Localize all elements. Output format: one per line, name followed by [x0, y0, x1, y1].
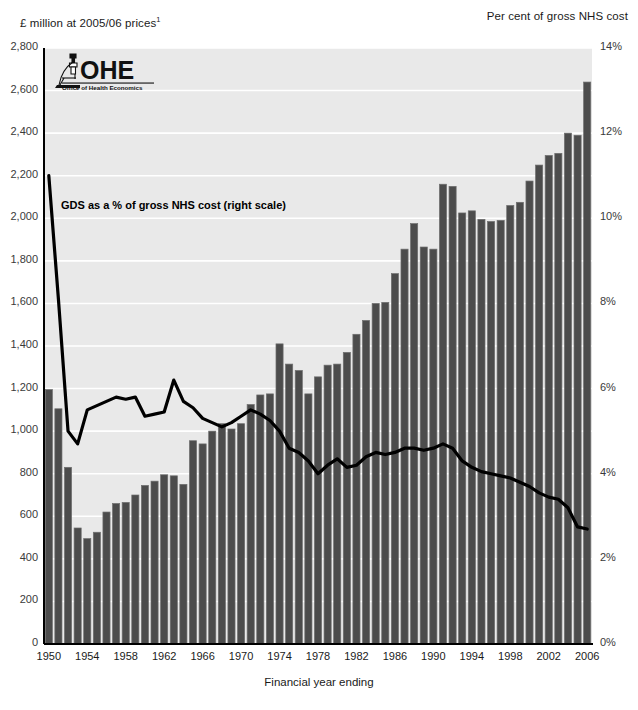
- bar: [478, 219, 485, 644]
- x-axis-tick-label: 1966: [190, 650, 214, 662]
- bar: [545, 155, 552, 644]
- bar: [266, 394, 273, 644]
- y-axis-left-tick-label: 600: [0, 508, 38, 520]
- bar: [516, 202, 523, 644]
- bar: [103, 512, 110, 644]
- bar: [305, 394, 312, 644]
- bar: [257, 395, 264, 644]
- bar: [113, 504, 120, 644]
- bar: [468, 211, 475, 644]
- y-axis-right-tick-label: 8%: [600, 295, 638, 307]
- bar: [247, 405, 254, 644]
- plot-area: [44, 48, 592, 644]
- bar: [324, 365, 331, 644]
- line-series-annotation: GDS as a % of gross NHS cost (right scal…: [61, 199, 286, 211]
- bar: [295, 370, 302, 644]
- y-axis-left-tick-label: 0: [0, 636, 38, 648]
- bar: [122, 502, 129, 644]
- ohe-logo: OHE Office of Health Economics: [50, 48, 156, 92]
- bar: [238, 424, 245, 644]
- y-axis-left-tick-label: 200: [0, 593, 38, 605]
- right-axis-title: Per cent of gross NHS cost: [487, 10, 628, 22]
- bar: [55, 409, 62, 644]
- chart-canvas: [44, 48, 592, 644]
- y-axis-right-tick-label: 10%: [600, 210, 638, 222]
- y-axis-line: [43, 48, 45, 644]
- y-axis-left-tick-label: 1,000: [0, 423, 38, 435]
- bar: [555, 153, 562, 644]
- bar: [459, 213, 466, 644]
- bar: [199, 444, 206, 644]
- y-axis-right-tick-label: 2%: [600, 551, 638, 563]
- bar: [382, 302, 389, 644]
- bar: [84, 539, 91, 644]
- bar: [363, 320, 370, 644]
- y-axis-right-tick-label: 12%: [600, 125, 638, 137]
- bar: [507, 206, 514, 644]
- y-axis-right-tick-label: 14%: [600, 40, 638, 52]
- bar: [189, 441, 196, 644]
- bar: [228, 429, 235, 644]
- x-axis-tick-label: 1994: [460, 650, 484, 662]
- y-axis-left-tick-label: 2,000: [0, 210, 38, 222]
- y-axis-left-tick-label: 2,200: [0, 168, 38, 180]
- bar: [488, 221, 495, 644]
- x-axis-tick-label: 1950: [37, 650, 61, 662]
- y-axis-left-tick-label: 2,600: [0, 83, 38, 95]
- x-axis-tick-label: 1986: [383, 650, 407, 662]
- bar: [151, 481, 158, 644]
- x-axis-tick-label: 1958: [113, 650, 137, 662]
- x-axis-tick-label: 2006: [575, 650, 599, 662]
- bar: [64, 467, 71, 644]
- y-axis-left-tick-label: 1,200: [0, 381, 38, 393]
- bar: [574, 135, 581, 644]
- y-axis-left-tick-label: 2,400: [0, 125, 38, 137]
- y-axis-right-tick-label: 0%: [600, 636, 638, 648]
- bar: [439, 184, 446, 644]
- bar: [391, 274, 398, 644]
- bar: [497, 220, 504, 644]
- ohe-subtitle: Office of Health Economics: [62, 84, 143, 91]
- x-axis-tick-label: 1998: [498, 650, 522, 662]
- bar: [584, 82, 591, 644]
- y-axis-left-tick-label: 2,800: [0, 40, 38, 52]
- ohe-logo-graphic: OHE Office of Health Economics: [50, 48, 156, 92]
- y-axis-left-tick-label: 1,800: [0, 253, 38, 265]
- bar: [334, 364, 341, 644]
- x-axis-tick-label: 1954: [75, 650, 99, 662]
- bar: [353, 334, 360, 644]
- bar: [218, 424, 225, 644]
- bar-series: [45, 82, 591, 644]
- bar: [343, 352, 350, 644]
- x-axis-tick-label: 1978: [306, 650, 330, 662]
- left-axis-title: £ million at 2005/06 prices1: [20, 15, 161, 29]
- x-axis-label: Financial year ending: [0, 676, 638, 688]
- bar: [74, 528, 81, 644]
- bar: [161, 475, 168, 644]
- bar: [170, 476, 177, 644]
- bar: [372, 303, 379, 644]
- bar: [420, 247, 427, 644]
- x-axis-tick-label: 1974: [267, 650, 291, 662]
- y-axis-left-tick-label: 800: [0, 466, 38, 478]
- bar: [132, 495, 139, 644]
- x-axis-tick-label: 1990: [421, 650, 445, 662]
- bar: [536, 165, 543, 644]
- bar: [286, 364, 293, 644]
- bar: [564, 133, 571, 644]
- bar: [93, 532, 100, 644]
- x-axis-tick-label: 1962: [152, 650, 176, 662]
- bar: [411, 224, 418, 644]
- bar: [45, 390, 52, 644]
- bar: [180, 484, 187, 644]
- bar: [449, 186, 456, 644]
- left-axis-title-text: £ million at 2005/06 prices: [20, 17, 156, 29]
- y-axis-right-tick-label: 6%: [600, 381, 638, 393]
- bar: [276, 344, 283, 644]
- y-axis-right-tick-label: 4%: [600, 466, 638, 478]
- x-axis-tick-label: 1970: [229, 650, 253, 662]
- left-axis-title-footnote: 1: [156, 15, 160, 24]
- bar: [526, 181, 533, 644]
- bar: [314, 377, 321, 644]
- x-axis-line: [44, 643, 593, 645]
